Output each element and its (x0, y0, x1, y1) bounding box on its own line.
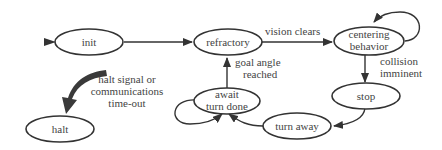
state-turn-away: turn away (263, 113, 331, 139)
edge-label-halt-2: communications (91, 85, 164, 97)
edge-label-halt-1: halt signal or (98, 73, 156, 85)
state-halt-label: halt (52, 123, 69, 135)
edge-label-collision-2: imminent (380, 67, 422, 79)
edge-turnaway-await (229, 114, 263, 126)
state-halt: halt (26, 116, 94, 142)
edge-label-vision-clears: vision clears (265, 25, 320, 37)
state-stop: stop (332, 83, 400, 109)
state-init: init (55, 29, 123, 55)
edge-label-halt-3: time-out (108, 97, 145, 109)
state-turn-away-label: turn away (275, 120, 319, 132)
state-refractory-label: refractory (206, 36, 250, 48)
state-init-label: init (82, 36, 97, 48)
edge-stop-turnaway (334, 108, 365, 126)
state-stop-label: stop (357, 90, 376, 102)
edge-label-goal-angle-2: reached (243, 68, 278, 80)
state-diagram: init refractory centering behavior stop … (0, 0, 442, 150)
state-refractory: refractory (194, 29, 262, 55)
state-centering-behavior: centering behavior (334, 27, 404, 55)
state-centering-label-1: centering (349, 28, 390, 40)
state-centering-label-2: behavior (350, 40, 389, 52)
edge-label-collision-1: collision (380, 55, 418, 67)
edge-label-goal-angle-1: goal angle (235, 56, 281, 68)
state-await-label-1: await (215, 88, 239, 100)
state-await-turn-done: await turn done (194, 88, 260, 114)
state-await-label-2: turn done (206, 100, 248, 112)
